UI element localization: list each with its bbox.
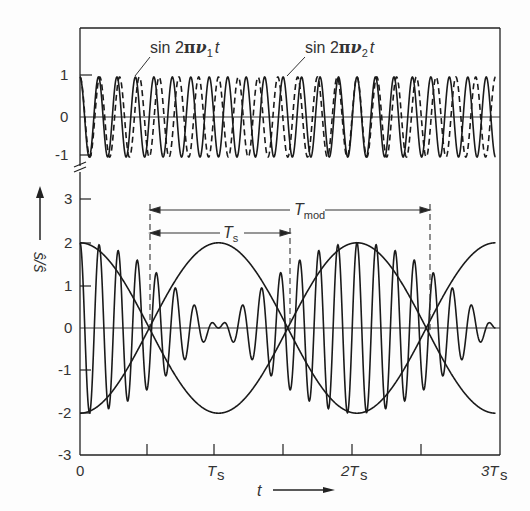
series-label-2: sin 2πν2t bbox=[305, 38, 375, 59]
beat-frequency-figure: 1 0 -1 3 2 1 0 -1 -2 -3 0 T s 2T s 3T s … bbox=[0, 0, 530, 511]
series-label-1: sin 2πν1t bbox=[150, 38, 220, 59]
svg-text:3T: 3T bbox=[481, 462, 500, 479]
svg-text:-2: -2 bbox=[58, 404, 71, 421]
svg-text:-3: -3 bbox=[58, 446, 71, 463]
ts-label: Ts bbox=[223, 224, 239, 244]
tmod-label: Tmod bbox=[294, 201, 325, 221]
svg-text:sin 2πν2t: sin 2πν2t bbox=[305, 38, 375, 59]
svg-text:2: 2 bbox=[64, 234, 72, 251]
svg-text:Ts: Ts bbox=[223, 224, 239, 244]
svg-text:sin 2πν1t: sin 2πν1t bbox=[150, 38, 220, 59]
arrow-up-icon bbox=[36, 186, 44, 198]
label-leader-2 bbox=[287, 57, 305, 76]
svg-text:s: s bbox=[500, 466, 508, 483]
label-leader-1 bbox=[135, 57, 150, 76]
lower-y-ticks bbox=[80, 199, 91, 413]
svg-text:1: 1 bbox=[64, 277, 72, 294]
svg-text:Tmod: Tmod bbox=[294, 201, 325, 221]
svg-text:-1: -1 bbox=[55, 146, 68, 163]
arrow-right-icon bbox=[323, 487, 335, 493]
ts-arrow bbox=[150, 230, 290, 236]
svg-text:3: 3 bbox=[64, 190, 72, 207]
x-tick-labels: 0 T s 2T s 3T s bbox=[76, 462, 508, 483]
x-ticks bbox=[147, 444, 421, 455]
y-axis-label: ŝ/ŝ bbox=[31, 186, 48, 272]
upper-y-tick-labels: 1 0 -1 bbox=[55, 66, 68, 163]
svg-text:0: 0 bbox=[76, 462, 84, 479]
svg-text:0: 0 bbox=[64, 319, 72, 336]
tmod-arrow bbox=[150, 207, 430, 213]
svg-text:-1: -1 bbox=[58, 361, 71, 378]
svg-text:t: t bbox=[257, 482, 262, 499]
svg-text:s: s bbox=[217, 466, 225, 483]
svg-text:1: 1 bbox=[60, 66, 68, 83]
svg-text:2T: 2T bbox=[340, 462, 360, 479]
lower-y-tick-labels: 3 2 1 0 -1 -2 -3 bbox=[58, 190, 72, 463]
svg-text:0: 0 bbox=[60, 108, 68, 125]
svg-text:ŝ/ŝ: ŝ/ŝ bbox=[31, 252, 48, 272]
svg-text:s: s bbox=[360, 466, 368, 483]
envelope-upper bbox=[80, 243, 496, 328]
chart-canvas: 1 0 -1 3 2 1 0 -1 -2 -3 0 T s 2T s 3T s … bbox=[0, 0, 530, 511]
x-axis-label: t bbox=[257, 482, 335, 499]
